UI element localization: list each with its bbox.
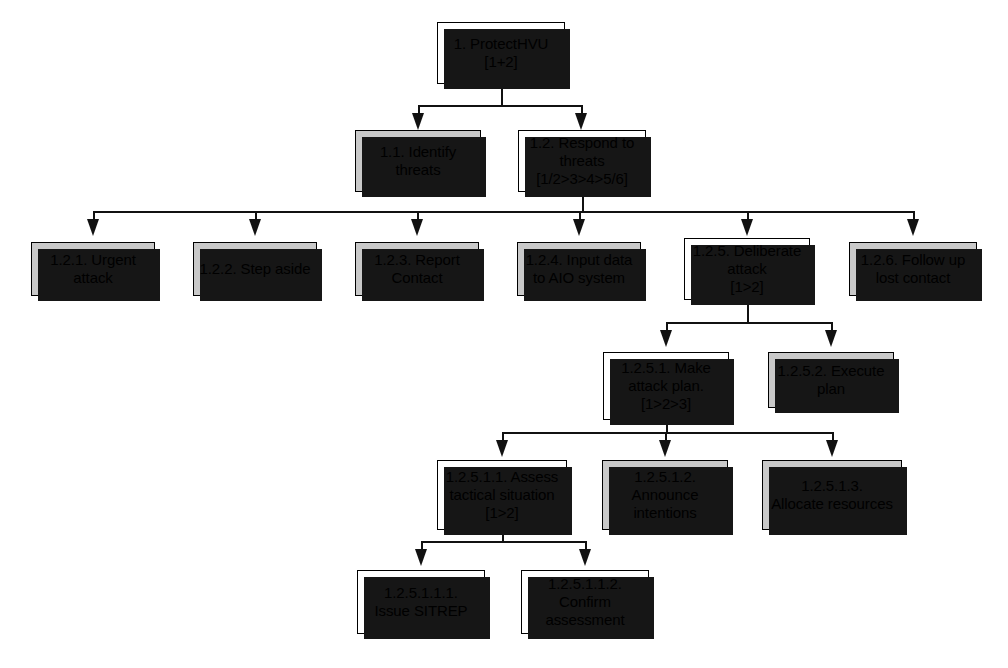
- task-node-n1-2-3[interactable]: 1.2.3. Report Contact: [355, 242, 479, 296]
- connector-arrowhead-icon: [579, 549, 591, 566]
- task-node-n1-2-5-1-1[interactable]: 1.2.5.1.1. Assess tactical situation [1>…: [437, 460, 567, 530]
- connector-bus: [666, 322, 831, 324]
- task-node-label: 1.2.2. Step aside: [197, 260, 314, 278]
- connector-arrowhead-icon: [575, 113, 587, 130]
- task-node-label: 1.2.5.1.1.1. Issue SITREP: [372, 584, 471, 619]
- hta-diagram: 1. ProtectHVU [1+2]1.1. Identify threats…: [0, 0, 1008, 668]
- task-node-label: 1.2.5. Deliberate attack [1>2]: [690, 242, 804, 295]
- connector-arrowhead-icon: [573, 219, 585, 236]
- task-node-label: 1.2.5.2. Execute plan: [775, 362, 888, 397]
- task-node-label: 1.2.5.1. Make attack plan. [1>2>3]: [618, 359, 714, 412]
- task-node-n1-2-5-1-1-1[interactable]: 1.2.5.1.1.1. Issue SITREP: [357, 570, 485, 634]
- connector-bus: [421, 541, 585, 543]
- connector-arrowhead-icon: [87, 219, 99, 236]
- connector-arrowhead-icon: [415, 549, 427, 566]
- task-node-n1-2-5-1-1-2[interactable]: 1.2.5.1.1.2. Confirm assessment: [521, 570, 649, 634]
- task-node-label: 1.2.1. Urgent attack: [47, 251, 138, 286]
- task-node-label: 1.2.5.1.3. Allocate resources: [768, 477, 896, 512]
- task-node-label: 1.2.3. Report Contact: [371, 251, 462, 286]
- task-node-n1-2[interactable]: 1.2. Respond to threats [1/2>3>4>5/6]: [518, 130, 646, 192]
- task-node-label: 1.1. Identify threats: [377, 143, 459, 178]
- task-node-label: 1.2.5.1.1. Assess tactical situation [1>…: [443, 468, 562, 521]
- connector-arrowhead-icon: [496, 440, 508, 457]
- task-node-n1-2-5[interactable]: 1.2.5. Deliberate attack [1>2]: [684, 238, 810, 300]
- task-node-n1-2-1[interactable]: 1.2.1. Urgent attack: [31, 242, 155, 296]
- task-node-label: 1.2. Respond to threats [1/2>3>4>5/6]: [527, 134, 637, 187]
- connector-group-level-1-2-5-1-1-children: [0, 0, 1008, 668]
- task-node-n1-2-2[interactable]: 1.2.2. Step aside: [193, 242, 317, 296]
- task-node-label: 1.2.5.1.2. Announce intentions: [629, 468, 702, 521]
- connector-arrowhead-icon: [826, 440, 838, 457]
- task-node-label: 1.2.5.1.1.2. Confirm assessment: [542, 575, 627, 628]
- task-node-n1-1[interactable]: 1.1. Identify threats: [355, 130, 481, 192]
- task-node-n1-2-6[interactable]: 1.2.6. Follow up lost contact: [849, 242, 977, 296]
- task-node-n1-2-4[interactable]: 1.2.4. Input data to AIO system: [517, 242, 641, 296]
- task-node-n1-2-5-2[interactable]: 1.2.5.2. Execute plan: [768, 352, 894, 408]
- task-node-n1-2-5-1[interactable]: 1.2.5.1. Make attack plan. [1>2>3]: [603, 352, 729, 420]
- task-node-label: 1.2.6. Follow up lost contact: [858, 251, 968, 286]
- task-node-n1-2-5-1-3[interactable]: 1.2.5.1.3. Allocate resources: [762, 460, 902, 530]
- connector-bus: [502, 432, 832, 434]
- connector-arrowhead-icon: [659, 440, 671, 457]
- connector-bus: [93, 211, 913, 213]
- connector-arrowhead-icon: [907, 219, 919, 236]
- task-node-label: 1. ProtectHVU [1+2]: [451, 35, 552, 70]
- connector-arrowhead-icon: [412, 113, 424, 130]
- task-node-label: 1.2.4. Input data to AIO system: [523, 251, 636, 286]
- connector-arrowhead-icon: [660, 330, 672, 347]
- task-node-root[interactable]: 1. ProtectHVU [1+2]: [437, 22, 565, 84]
- connector-bus: [418, 105, 581, 107]
- connector-arrowhead-icon: [741, 219, 753, 236]
- task-node-n1-2-5-1-2[interactable]: 1.2.5.1.2. Announce intentions: [602, 460, 728, 530]
- connector-arrowhead-icon: [411, 219, 423, 236]
- connector-arrowhead-icon: [249, 219, 261, 236]
- connector-arrowhead-icon: [825, 330, 837, 347]
